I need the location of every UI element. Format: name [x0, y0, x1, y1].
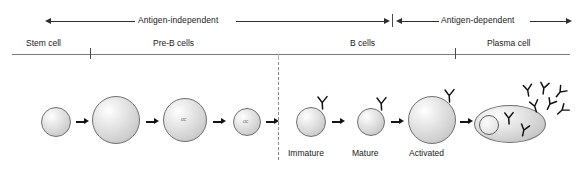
- activated-b-cell: [408, 96, 456, 144]
- secreted-antibody-icon-1: [521, 83, 534, 97]
- step-arrow-6: [391, 118, 404, 125]
- stage-label-pre-b-cells: Pre-B cells: [153, 38, 194, 49]
- secreted-antibody-icon-4: [528, 99, 543, 115]
- mature-b-cell: [357, 108, 385, 136]
- plasma-cell-internal-antibody-icon-1: [503, 112, 515, 125]
- plasma-cell-nucleus: [479, 115, 499, 135]
- antigen-dependent-shaft-left: [401, 21, 439, 22]
- step-arrow-5: [332, 118, 345, 125]
- early-pro-b-cell: [92, 96, 140, 144]
- antigen-dependent-right-arrowhead: [566, 18, 572, 24]
- sub-label-mature: Mature: [352, 148, 378, 159]
- antigen-dependent-shaft-right: [530, 21, 566, 22]
- stage-axis-rule: [12, 54, 570, 55]
- mature-b-cell-receptor-icon: [375, 97, 388, 111]
- phase-label-antigen-independent: Antigen-independent: [138, 15, 218, 26]
- phase-label-antigen-dependent: Antigen-dependent: [441, 15, 515, 26]
- antigen-independent-shaft-right: [236, 21, 387, 22]
- step-arrow-1: [76, 118, 89, 125]
- axis-tick-midline: [278, 54, 279, 60]
- immature-b-cell-receptor-icon: [316, 96, 329, 110]
- step-arrow-3: [213, 118, 226, 125]
- b-cell-development-figure: Antigen-independent Antigen-dependent St…: [0, 0, 582, 170]
- pre-b-cell-large-marker: αc: [181, 116, 186, 122]
- step-arrow-2: [146, 118, 159, 125]
- phase-divider-tick: [392, 14, 393, 27]
- step-arrow-7: [460, 118, 473, 125]
- axis-tick-stem-preb: [90, 48, 91, 59]
- stage-label-plasma-cell: Plasma cell: [487, 38, 530, 49]
- stage-label-stem-cell: Stem cell: [26, 38, 61, 49]
- antigen-divider-dashed-line: [278, 62, 279, 160]
- secreted-antibody-icon-2: [537, 81, 551, 96]
- axis-tick-b-plasma: [455, 48, 456, 59]
- antigen-independent-right-arrowhead: [384, 18, 390, 24]
- sub-label-immature: Immature: [288, 148, 324, 159]
- stage-label-b-cells: B cells: [350, 38, 375, 49]
- stem-cell: [41, 107, 71, 137]
- sub-label-activated: Activated: [409, 148, 444, 159]
- pre-b-cell-small-marker: αc: [243, 118, 248, 124]
- antigen-independent-shaft-left: [50, 21, 135, 22]
- activated-b-cell-receptor-icon: [443, 89, 456, 103]
- step-arrow-4: [266, 118, 279, 125]
- immature-b-cell: [296, 107, 326, 137]
